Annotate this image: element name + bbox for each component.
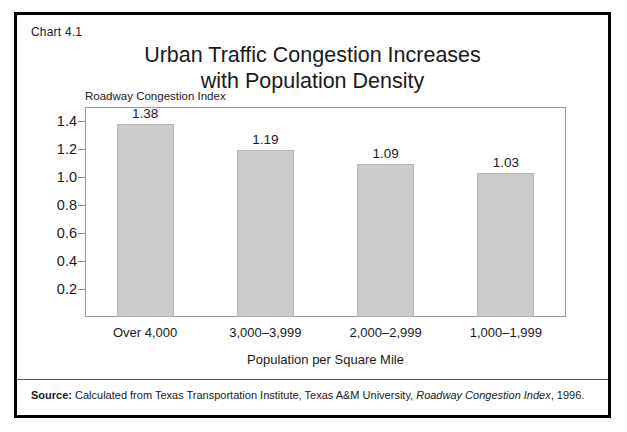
y-axis-tick-label: 1.0 bbox=[37, 169, 77, 185]
chart-title: Urban Traffic Congestion Increases with … bbox=[17, 42, 608, 94]
x-axis-category-label: 1,000–1,999 bbox=[446, 325, 566, 340]
source-note: Source: Calculated from Texas Transporta… bbox=[31, 388, 598, 403]
y-axis-tick-mark bbox=[78, 121, 85, 122]
y-axis-tick-mark bbox=[78, 233, 85, 234]
x-axis-category-label: 3,000–3,999 bbox=[205, 325, 325, 340]
y-axis-tick-mark bbox=[78, 205, 85, 206]
y-axis-tick-label: 1.4 bbox=[37, 113, 77, 129]
bar bbox=[117, 124, 174, 317]
y-axis-tick-label: 0.2 bbox=[37, 281, 77, 297]
y-axis-tick-labels: 0.20.40.60.81.01.21.4 bbox=[27, 107, 77, 317]
source-label: Source: bbox=[31, 389, 72, 401]
y-axis-tick-label: 1.2 bbox=[37, 141, 77, 157]
chart-figure-frame: Chart 4.1 Urban Traffic Congestion Incre… bbox=[14, 12, 611, 418]
y-axis-tick-mark bbox=[78, 149, 85, 150]
source-text-after: , 1996. bbox=[551, 389, 585, 401]
y-axis-tick-marks bbox=[85, 107, 86, 317]
source-publication-title: Roadway Congestion Index bbox=[416, 389, 551, 401]
chart-number-label: Chart 4.1 bbox=[31, 25, 82, 39]
y-axis-tick-label: 0.8 bbox=[37, 197, 77, 213]
bar-value-label: 1.38 bbox=[105, 106, 185, 121]
y-axis-tick-label: 0.6 bbox=[37, 225, 77, 241]
bar-value-label: 1.19 bbox=[225, 132, 305, 147]
bar bbox=[357, 164, 414, 317]
bar-value-label: 1.09 bbox=[346, 146, 426, 161]
y-axis-title: Roadway Congestion Index bbox=[85, 90, 226, 102]
y-axis-tick-mark bbox=[78, 177, 85, 178]
x-axis-title: Population per Square Mile bbox=[85, 352, 566, 367]
y-axis-tick-label: 0.4 bbox=[37, 253, 77, 269]
x-axis-category-label: 2,000–2,999 bbox=[326, 325, 446, 340]
x-axis-category-label: Over 4,000 bbox=[85, 325, 205, 340]
y-axis-tick-mark bbox=[78, 289, 85, 290]
plot-area: Roadway Congestion Index 0.20.40.60.81.0… bbox=[85, 107, 566, 331]
source-text-before: Calculated from Texas Transportation Ins… bbox=[72, 389, 416, 401]
bar bbox=[237, 150, 294, 317]
bar-value-label: 1.03 bbox=[466, 155, 546, 170]
source-divider bbox=[17, 379, 608, 380]
y-axis-tick-mark bbox=[78, 261, 85, 262]
bar bbox=[477, 173, 534, 317]
chart-title-line-1: Urban Traffic Congestion Increases bbox=[17, 42, 608, 68]
